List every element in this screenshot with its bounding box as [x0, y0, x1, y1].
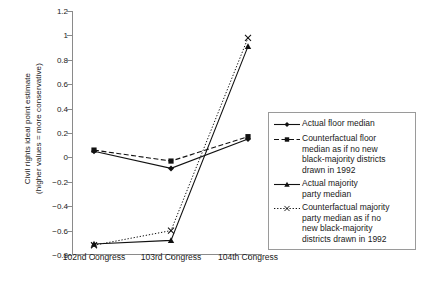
legend-item-label: Actual majority party median [302, 178, 358, 199]
diamond-marker [284, 122, 289, 127]
cross-marker [245, 35, 251, 41]
square-marker [285, 137, 289, 141]
y-tick-label: −0.2 [52, 177, 68, 186]
x-tick-label: 102nd Congress [63, 252, 125, 262]
y-tick-label: −0.4 [52, 202, 68, 211]
legend-item[interactable]: Counterfactual floor median as if no new… [272, 133, 411, 175]
legend-key [272, 179, 302, 190]
legend-key [272, 134, 302, 145]
y-axis-tick-labels: 1.210.80.60.40.20−0.2−0.4−0.6−0.8 [0, 0, 68, 281]
x-tick-label: 103rd Congress [141, 252, 201, 262]
series-lines [72, 11, 262, 255]
cross-marker [284, 206, 289, 211]
square-marker [91, 147, 96, 152]
square-marker [168, 158, 173, 163]
legend-item-label: Actual floor median [302, 118, 375, 129]
legend-item-label: Counterfactual floor median as if no new… [302, 133, 386, 175]
square-marker [245, 134, 250, 139]
cross-marker [168, 228, 174, 234]
series-line [94, 137, 248, 161]
line-chart: Civil rights ideal point estimate (highe… [0, 0, 421, 281]
diamond-marker [168, 165, 174, 171]
legend-item[interactable]: Counterfactual majority party median as … [272, 202, 411, 244]
y-tick-label: −0.6 [52, 226, 68, 235]
x-tick-label: 104th Congress [218, 252, 278, 262]
legend-item[interactable]: Actual majority party median [272, 178, 411, 199]
legend-key [272, 119, 302, 130]
plot-area [72, 11, 262, 255]
legend-item[interactable]: Actual floor median [272, 118, 411, 130]
chart-legend: Actual floor medianCounterfactual floor … [268, 112, 416, 250]
series-line [94, 46, 248, 244]
series-line [94, 38, 248, 245]
legend-item-label: Counterfactual majority party median as … [302, 202, 389, 244]
legend-key [272, 203, 302, 214]
